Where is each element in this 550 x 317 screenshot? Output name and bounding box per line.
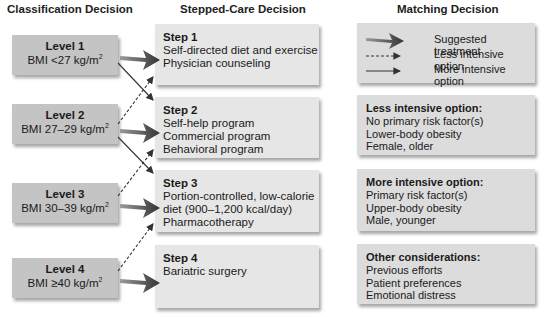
legend-suggested-icon	[366, 33, 404, 49]
connector-arrows	[0, 0, 550, 317]
more-intensive-arrow-icon	[118, 63, 153, 173]
less-intensive-arrow-icon	[118, 77, 153, 271]
